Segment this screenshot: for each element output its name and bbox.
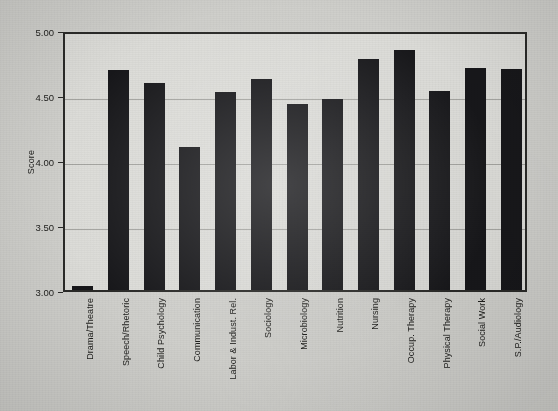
x-axis-tick-label: Nursing (370, 298, 380, 330)
y-axis-tick-label: 5.00 (14, 27, 54, 38)
x-axis-tick-label: Occup. Therapy (406, 298, 416, 363)
x-axis-tick-label: Nutrition (335, 298, 345, 332)
x-axis-tick-label: Sociology (263, 298, 273, 338)
x-axis-tick-label: Communication (192, 298, 202, 362)
x-axis-tick-label: Social Work (477, 298, 487, 347)
plot-area (63, 32, 527, 292)
bar (72, 286, 93, 290)
x-axis-tick-label: Microbiology (299, 298, 309, 350)
bar-series (65, 34, 525, 290)
y-axis-tick-label: 3.50 (14, 222, 54, 233)
y-axis-tick-label: 4.00 (14, 157, 54, 168)
x-axis-tick-label: Child Psychology (156, 298, 166, 369)
bar (215, 92, 236, 290)
y-axis-tick-mark (58, 292, 63, 293)
bar (394, 50, 415, 291)
y-axis-tick-label: 3.00 (14, 287, 54, 298)
bar (251, 79, 272, 290)
y-axis-tick-label: 4.50 (14, 92, 54, 103)
bar (429, 91, 450, 290)
x-axis-tick-label: Labor & Indust. Rel. (228, 298, 238, 380)
x-axis-tick-label: Speech/Rhetoric (121, 298, 131, 366)
bar (108, 70, 129, 290)
x-axis-tick-label: S.P./Audiology (513, 298, 523, 357)
bar (358, 59, 379, 290)
x-axis-tick-label: Drama/Theatre (85, 298, 95, 360)
bar (144, 83, 165, 290)
bar (465, 68, 486, 290)
bar (501, 69, 522, 290)
x-axis-tick-label: Physical Therapy (442, 298, 452, 368)
bar (179, 147, 200, 290)
bar (287, 104, 308, 290)
bar (322, 99, 343, 290)
bar-chart: Score 5.004.504.003.503.00 Drama/Theatre… (0, 0, 558, 411)
